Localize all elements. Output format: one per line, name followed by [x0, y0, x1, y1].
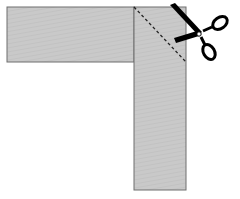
horizontal-strip	[7, 7, 134, 62]
miter-cut-diagram	[0, 0, 240, 199]
vertical-strip	[134, 7, 186, 190]
